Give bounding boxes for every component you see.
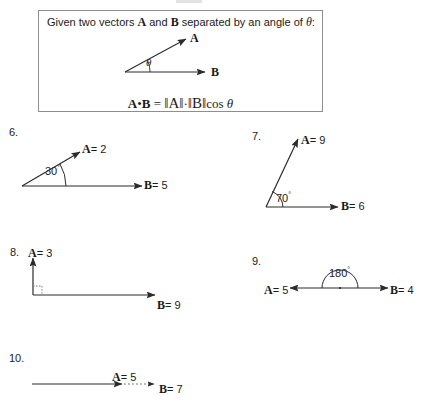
worksheet-page: Given two vectors A and B separated by a… [0,0,432,401]
formula-norm-a: ‖A‖ [164,95,183,111]
definition-intro-suffix: separated by an angle of [182,16,303,28]
problem-6-angle-label: 30° [45,164,60,177]
definition-box: Given two vectors A and B separated by a… [38,10,323,112]
problem-8-label-a: A= 3 [28,246,52,261]
problem-9-label-b: B= 4 [390,283,414,298]
problem-8-diagram [33,258,155,295]
problem-10-label-b: B= 7 [159,382,183,397]
problem-6-diagram [22,152,142,186]
problem-7-angle-label: 70° [276,191,291,204]
formula-vector-a: A [128,96,137,111]
problem-number-7: 7. [252,130,261,142]
definition-diagram-theta: θ [146,56,151,68]
formula-theta: θ [227,96,233,111]
problem-6-label-a: A= 2 [82,142,106,157]
problem-7-label-b: B= 6 [341,199,365,214]
definition-diagram-label-a: A [190,31,199,46]
formula-vector-b: B [142,96,151,111]
problem-7-label-a: A= 9 [301,133,325,148]
problem-6-angle-arc [60,164,66,186]
problem-9-label-a: A= 5 [264,283,288,298]
problem-number-8: 8. [10,246,19,258]
problem-number-10: 10. [9,352,24,364]
problem-number-9: 9. [252,255,261,267]
definition-sentence: Given two vectors A and B separated by a… [47,16,315,29]
page-top-artifact [176,0,202,3]
definition-colon: : [312,16,315,28]
formula-cos: cos [206,96,223,111]
definition-diagram-label-b: B [211,65,219,80]
definition-vector-b-label: B [171,15,179,29]
problem-8-right-angle-marker [33,286,42,295]
problem-9-angle-label: 180° [329,266,350,279]
definition-intro-middle: and [149,16,167,28]
problem-9-origin-dot [339,287,341,289]
dot-product-formula: A•B = ‖A‖·‖B‖cos θ [39,95,322,112]
problem-10-label-a: A= 5 [112,370,136,385]
formula-equals: = [154,96,161,111]
problem-8-label-b: B= 9 [157,298,181,313]
definition-vector-a-label: A [137,15,146,29]
definition-intro-prefix: Given two vectors [47,16,134,28]
problem-number-6: 6. [9,126,18,138]
formula-norm-b: ‖B‖ [188,95,206,111]
problem-6-label-b: B= 5 [144,178,168,193]
